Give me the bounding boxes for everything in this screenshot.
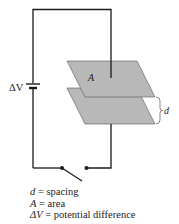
switch-contact-icon — [85, 166, 89, 170]
legend-equals: = — [36, 198, 47, 209]
spacing-brace-icon — [156, 97, 163, 124]
battery-label: ΔV — [9, 82, 24, 93]
legend-meaning: potential difference — [54, 209, 136, 220]
legend-item-potential-difference: ΔV = potential difference — [30, 209, 135, 221]
legend: d = spacing A = area ΔV = potential diff… — [30, 186, 135, 221]
legend-equals: = — [43, 209, 54, 220]
switch-lever[interactable] — [62, 168, 82, 181]
legend-item-area: A = area — [30, 198, 135, 210]
area-label: A — [87, 72, 95, 83]
legend-item-spacing: d = spacing — [30, 186, 135, 198]
bottom-right-wire — [86, 124, 111, 168]
legend-symbol: ΔV — [30, 209, 43, 220]
switch[interactable] — [60, 166, 89, 181]
battery-icon — [26, 83, 41, 89]
legend-equals: = — [35, 186, 46, 197]
legend-meaning: area — [48, 198, 65, 209]
legend-meaning: spacing — [46, 186, 78, 197]
spacing-label: d — [164, 105, 170, 116]
